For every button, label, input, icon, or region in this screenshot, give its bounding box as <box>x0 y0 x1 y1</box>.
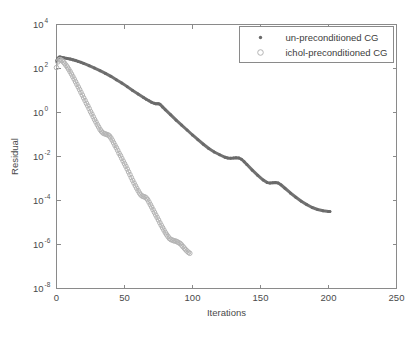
y-tick-label-exponent: -6 <box>45 237 51 244</box>
x-tick-label: 0 <box>54 292 59 303</box>
x-tick-label: 150 <box>253 292 269 303</box>
y-tick-label: 10 <box>33 151 44 162</box>
data-point-marker <box>271 181 274 184</box>
data-point-marker <box>232 157 235 160</box>
data-point-marker <box>279 183 282 186</box>
x-tick-label: 250 <box>389 292 405 303</box>
legend-label: ichol-preconditioned CG <box>286 47 388 58</box>
data-point-marker <box>262 179 265 182</box>
data-point-marker <box>251 169 254 172</box>
data-point-marker <box>169 113 172 116</box>
data-point-marker <box>115 78 118 81</box>
data-point-marker <box>104 72 107 75</box>
y-tick-label: 10 <box>33 19 44 30</box>
data-point-marker <box>202 143 205 146</box>
y-tick-label: 10 <box>33 195 44 206</box>
residual-convergence-chart: 05010015020025010410210010-210-410-610-8… <box>0 0 420 341</box>
data-point-marker <box>79 61 82 64</box>
data-point-marker <box>243 160 246 163</box>
data-point-marker <box>300 200 303 203</box>
y-tick-label: 10 <box>33 239 44 250</box>
data-point-marker <box>237 156 240 159</box>
chart-legend[interactable]: un-preconditioned CGichol-preconditioned… <box>240 27 394 63</box>
data-point-marker <box>71 58 74 61</box>
data-point-marker <box>164 108 167 111</box>
data-point-marker <box>93 67 96 70</box>
data-point-marker <box>266 181 269 184</box>
data-point-marker <box>88 64 91 67</box>
data-point-marker <box>175 119 178 122</box>
data-point-marker <box>311 206 314 209</box>
data-point-marker <box>207 147 210 150</box>
data-point-marker <box>109 75 112 78</box>
data-point-marker <box>131 89 134 92</box>
x-tick-label: 50 <box>119 292 130 303</box>
y-tick-label-exponent: 4 <box>45 17 49 24</box>
x-axis-label: Iterations <box>207 307 246 318</box>
data-point-marker <box>158 103 161 106</box>
data-point-marker <box>196 138 199 141</box>
data-point-marker <box>142 96 145 99</box>
data-point-marker <box>224 156 227 159</box>
data-point-marker <box>137 92 140 95</box>
data-point-marker <box>316 208 319 211</box>
data-point-marker <box>99 69 102 72</box>
data-point-marker <box>145 98 148 101</box>
legend-label: un-preconditioned CG <box>286 32 379 43</box>
y-axis-label: Residual <box>9 138 20 175</box>
figure-container: 05010015020025010410210010-210-410-610-8… <box>0 0 420 341</box>
data-point-marker <box>213 151 216 154</box>
data-point-marker <box>229 157 232 160</box>
data-point-marker <box>235 156 238 159</box>
data-point-marker <box>245 163 248 166</box>
y-tick-label: 10 <box>33 63 44 74</box>
y-tick-label: 10 <box>33 107 44 118</box>
data-point-marker <box>161 105 164 108</box>
data-point-marker <box>277 182 280 185</box>
data-point-marker <box>77 60 80 63</box>
data-point-marker <box>147 99 150 102</box>
y-tick-label-exponent: -2 <box>45 149 51 156</box>
data-point-marker <box>283 187 286 190</box>
data-point-marker <box>294 196 297 199</box>
data-point-marker <box>328 210 331 213</box>
data-point-marker <box>256 174 259 177</box>
y-tick-label-exponent: -4 <box>45 193 51 200</box>
data-point-marker <box>74 59 77 62</box>
data-point-marker <box>191 133 194 136</box>
data-point-marker <box>269 182 272 185</box>
data-point-marker <box>322 209 325 212</box>
data-point-marker <box>69 58 72 61</box>
data-point-marker <box>66 57 69 60</box>
data-point-marker <box>226 156 229 159</box>
y-tick-label: 10 <box>33 283 44 294</box>
y-tick-label-exponent: 0 <box>45 105 49 112</box>
data-point-marker <box>150 101 153 104</box>
x-tick-label: 100 <box>185 292 201 303</box>
data-point-marker <box>120 81 123 84</box>
y-tick-label-exponent: 2 <box>45 61 49 68</box>
data-point-marker <box>289 191 292 194</box>
legend-marker-asterisk-icon <box>259 36 262 39</box>
data-point-marker <box>126 85 129 88</box>
data-point-marker <box>274 181 277 184</box>
x-tick-label: 200 <box>321 292 337 303</box>
data-point-marker <box>82 62 85 65</box>
data-point-marker <box>305 203 308 206</box>
data-point-marker <box>180 124 183 127</box>
y-tick-label-exponent: -8 <box>45 281 51 288</box>
data-point-marker <box>186 129 189 132</box>
data-point-marker <box>218 153 221 156</box>
data-point-marker <box>240 158 243 161</box>
